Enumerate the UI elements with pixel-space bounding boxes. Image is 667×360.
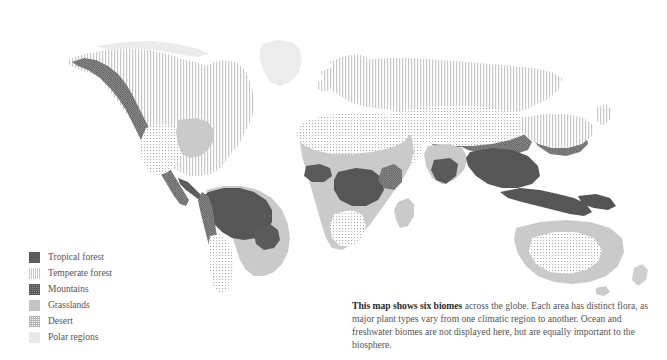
legend-label-polar-regions: Polar regions <box>48 332 98 343</box>
legend-swatch-polar-regions-icon <box>29 332 40 343</box>
congo-tropical-forest <box>334 168 384 206</box>
legend-swatch-temperate-forest-icon <box>29 268 40 279</box>
legend-label-desert: Desert <box>48 316 73 327</box>
legend-item-tropical-forest[interactable]: Tropical forest <box>29 249 209 265</box>
legend-item-grasslands[interactable]: Grasslands <box>29 297 209 313</box>
legend-item-polar-regions[interactable]: Polar regions <box>29 329 209 345</box>
legend-swatch-tropical-forest-icon <box>29 252 40 263</box>
legend-swatch-mountains-icon <box>29 284 40 295</box>
legend-item-temperate-forest[interactable]: Temperate forest <box>29 265 209 281</box>
legend-swatch-grasslands-icon <box>29 300 40 311</box>
legend-swatch-desert-icon <box>29 316 40 327</box>
caption-lead: This map shows six biomes <box>352 300 462 311</box>
legend-label-temperate-forest: Temperate forest <box>48 268 112 279</box>
legend-label-grasslands: Grasslands <box>48 300 90 311</box>
legend-item-mountains[interactable]: Mountains <box>29 281 209 297</box>
map-legend: Tropical forest Temperate forest Mountai… <box>29 249 209 345</box>
legend-item-desert[interactable]: Desert <box>29 313 209 329</box>
map-caption: This map shows six biomes across the glo… <box>352 299 652 352</box>
legend-label-tropical-forest: Tropical forest <box>48 252 104 263</box>
legend-label-mountains: Mountains <box>48 284 89 295</box>
biomes-map-page: Tropical forest Temperate forest Mountai… <box>0 0 667 360</box>
